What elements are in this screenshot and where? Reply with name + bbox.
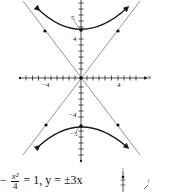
y-tick-4: 4 xyxy=(73,36,77,43)
equation-caption: − x² 4 = 1, y = ±3x xyxy=(0,172,83,191)
y-tick-5: 5 xyxy=(71,15,75,22)
x-tick-4: 4 xyxy=(117,82,121,89)
x-axis-label: x xyxy=(148,74,151,81)
caption-fraction: x² 4 xyxy=(11,172,20,191)
svg-text:y: y xyxy=(121,166,124,171)
y-tick-neg4: −4 xyxy=(69,112,76,119)
caption-prefix: − xyxy=(0,173,7,187)
upper-branch xyxy=(38,8,127,29)
fraction-denominator: 4 xyxy=(11,182,20,191)
y-tick-neg5: −5 xyxy=(70,131,77,138)
next-graph-thumbnail: y xyxy=(112,165,182,192)
hyperbola-graph xyxy=(0,0,182,192)
caption-rest: = 1, y = ±3x xyxy=(23,173,82,187)
x-tick-neg4: −4 xyxy=(42,82,49,89)
